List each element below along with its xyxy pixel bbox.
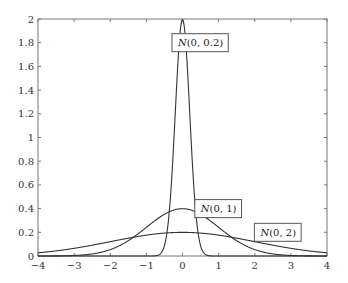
y-tick-label: 0.6: [18, 179, 34, 190]
y-tick-label: 2: [28, 14, 34, 25]
curve-n-0-0-2: [38, 20, 327, 256]
x-tick-label: −4: [31, 260, 46, 271]
series-label-text: N(0, 2): [259, 227, 296, 238]
y-tick-label: 1.2: [18, 108, 34, 119]
curves: [38, 20, 327, 256]
series-label: N(0, 0.2): [172, 34, 228, 52]
series-label-text: N(0, 1): [200, 203, 237, 214]
x-tick-label: −2: [103, 260, 118, 271]
y-tick-label: 0.4: [18, 203, 34, 214]
y-tick-label: 1.4: [18, 85, 34, 96]
series-label-text: N(0, 0.2): [177, 37, 223, 48]
x-tick-label: −1: [139, 260, 154, 271]
y-tick-label: 1: [28, 132, 34, 143]
y-tick-label: 0.8: [18, 156, 34, 167]
x-tick-label: 2: [252, 260, 258, 271]
y-tick-label: 0: [28, 251, 34, 262]
y-tick-label: 0.2: [18, 227, 34, 238]
series-label: N(0, 2): [254, 223, 301, 241]
series-label: N(0, 1): [195, 200, 242, 218]
x-tick-label: 0: [179, 260, 185, 271]
normal-distributions-chart: −4−3−2−10123400.20.40.60.811.21.41.61.82…: [0, 0, 348, 283]
y-tick-label: 1.6: [18, 61, 34, 72]
x-tick-label: −3: [67, 260, 82, 271]
plot-frame: [38, 19, 327, 256]
y-tick-label: 1.8: [18, 37, 34, 48]
x-tick-label: 1: [215, 260, 221, 271]
x-tick-label: 4: [324, 260, 330, 271]
axes: [38, 19, 327, 256]
x-tick-label: 3: [288, 260, 294, 271]
